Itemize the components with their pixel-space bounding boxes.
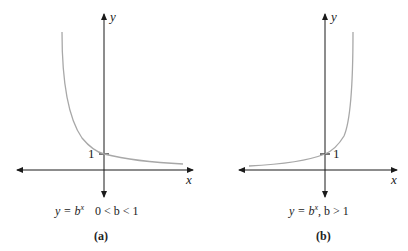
panel-a-caption: y = bx 0 < b < 1 (55, 203, 139, 219)
panel-b-tick-label-1: 1 (333, 146, 340, 162)
panel-b-equation: y = b (289, 204, 314, 218)
panel-b-x-label: x (391, 172, 397, 188)
panel-a-condition: 0 < b < 1 (95, 204, 139, 218)
panel-b-caption: y = bx, b > 1 (289, 203, 349, 219)
panel-b-y-label: y (331, 9, 337, 25)
panel-a-y-label: y (110, 9, 116, 25)
panel-a-curve (62, 32, 183, 164)
panel-b-sublabel: (b) (316, 229, 331, 244)
panel-b-plot (239, 14, 397, 197)
panel-a-plot (17, 14, 193, 197)
panel-a-x-label: x (186, 172, 192, 188)
panel-a-sublabel: (a) (94, 229, 108, 244)
panel-a-equation: y = b (55, 204, 80, 218)
panel-b-condition: , b > 1 (318, 204, 349, 218)
panel-a-exponent: x (80, 203, 84, 212)
panel-a-tick-label-1: 1 (88, 146, 95, 162)
